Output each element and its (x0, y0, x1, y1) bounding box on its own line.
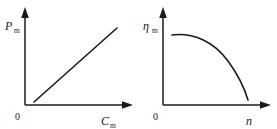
left-chart-labels: P m C m 0 (0, 0, 139, 129)
left-y-axis-label-subscript: m (14, 26, 20, 35)
right-y-axis-label-subscript: m (152, 26, 158, 35)
left-x-axis-label: C (101, 114, 110, 128)
right-origin-label: 0 (153, 111, 158, 122)
left-origin-label: 0 (15, 111, 20, 122)
chart-panel-right: η m n 0 (138, 0, 277, 129)
right-y-axis-label: η (143, 19, 149, 33)
figure-root: P m C m 0 η m n 0 (0, 0, 277, 129)
left-x-axis-label-subscript: m (110, 121, 116, 129)
right-x-axis-label: n (246, 114, 252, 128)
left-y-axis-label: P (4, 19, 13, 33)
chart-panel-left: P m C m 0 (0, 0, 139, 129)
right-chart-labels: η m n 0 (138, 0, 277, 129)
